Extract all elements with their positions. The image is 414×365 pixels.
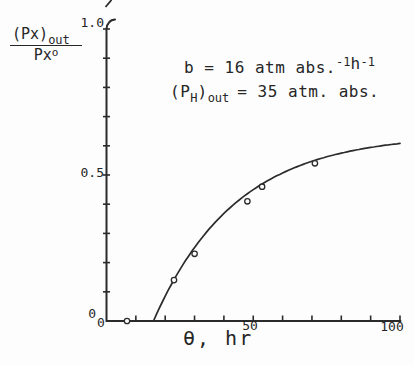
y-tick-label-0.5: 0.5 — [80, 166, 104, 180]
y-axis-label-denominator-sup: o — [52, 46, 59, 59]
x-axis-label: θ, hr — [183, 328, 253, 349]
annotation-ph-value: (PH)out= 35 atm. abs. — [170, 84, 379, 101]
figure: (Px)out Pxo 1.0 0.5 0 0 50 100 θ, hr b =… — [0, 0, 414, 365]
data-point — [171, 277, 176, 282]
superscript: -1 — [336, 55, 350, 69]
subscript-out: out — [208, 91, 230, 105]
y-axis-label: (Px)out Pxo — [10, 27, 82, 64]
y-tick-label-0: 0 — [82, 307, 96, 321]
fit-curve — [154, 143, 401, 321]
annotation-ph-rhs: = 35 atm. abs. — [237, 82, 379, 101]
superscript: -1 — [361, 55, 375, 69]
y-axis-label-numerator: (Px)out — [10, 27, 82, 44]
y-axis-label-denominator: Pxo — [10, 46, 82, 64]
annotation-h: h — [350, 54, 360, 73]
data-point — [259, 184, 264, 189]
data-point — [312, 161, 317, 166]
data-point — [245, 199, 250, 204]
x-tick-label-100: 100 — [378, 320, 406, 334]
stray-mark — [106, 0, 112, 7]
x-tick-label-0: 0 — [97, 316, 105, 330]
subscript-H: H — [190, 91, 197, 105]
data-point — [124, 318, 129, 323]
annotation-b-value: b = 16 atm abs.-1h-1 — [184, 60, 375, 77]
y-tick-label-1.0: 1.0 — [80, 16, 104, 30]
y-axis-label-numerator-sub: out — [48, 33, 70, 47]
data-point — [192, 251, 197, 256]
